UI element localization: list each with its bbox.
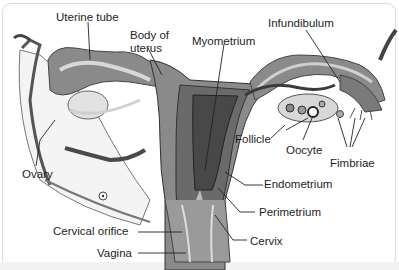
label-myometrium: Myometrium (192, 35, 255, 48)
label-fimbriae: Fimbriae (330, 157, 375, 170)
label-body-of-uterus-line1: Body of (130, 29, 169, 42)
label-perimetrium: Perimetrium (259, 206, 321, 219)
label-body-of-uterus-line2: uterus (130, 42, 162, 55)
label-oocyte: Oocyte (286, 144, 322, 157)
label-cervical-orifice: Cervical orifice (53, 225, 128, 238)
label-endometrium: Endometrium (264, 178, 332, 191)
label-ovary: Ovary (22, 168, 53, 181)
label-cervix: Cervix (250, 235, 283, 248)
label-vagina: Vagina (97, 247, 132, 260)
label-uterine-tube: Uterine tube (56, 11, 119, 24)
label-follicle: Follicle (235, 133, 271, 146)
label-infundibulum: Infundibulum (268, 17, 334, 30)
